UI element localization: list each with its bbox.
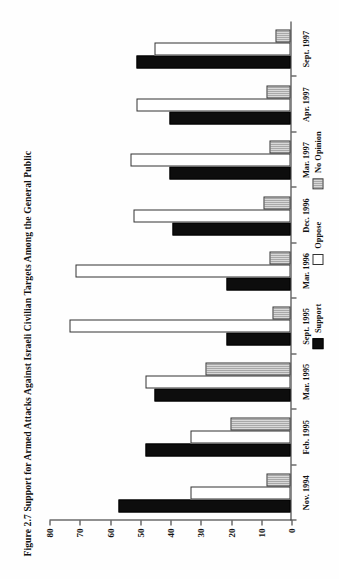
value-axis-label: 20 bbox=[226, 528, 236, 554]
bar-support bbox=[118, 499, 290, 512]
category-label: Sept. 1997 bbox=[302, 30, 311, 67]
bar-noop bbox=[269, 140, 290, 153]
bar-group: Sept. 1997 bbox=[49, 21, 291, 76]
bar-oppose bbox=[145, 375, 290, 388]
bar-noop bbox=[266, 85, 290, 98]
bar-noop bbox=[230, 417, 291, 430]
value-axis-tick bbox=[171, 520, 172, 525]
value-axis-label: 70 bbox=[75, 528, 85, 554]
bar-support bbox=[136, 55, 290, 68]
bar-noop bbox=[263, 196, 290, 209]
plot-area: SupportOpposeNo Opinion 0102030405060708… bbox=[50, 21, 292, 520]
bar-group: Nov. 1994 bbox=[49, 465, 291, 520]
value-axis-label: 30 bbox=[196, 528, 206, 554]
chart-legend: SupportOpposeNo Opinion bbox=[310, 21, 324, 520]
bar-noop bbox=[206, 362, 291, 375]
category-axis-tick bbox=[292, 75, 297, 76]
value-axis-tick bbox=[231, 520, 232, 525]
bar-oppose bbox=[133, 209, 290, 222]
category-label: Feb. 1995 bbox=[302, 420, 311, 454]
bar-group: Mar. 1995 bbox=[49, 354, 291, 409]
legend-label: No Opinion bbox=[314, 131, 323, 173]
bar-support bbox=[154, 388, 290, 401]
category-label: Dec. 1996 bbox=[302, 198, 311, 232]
category-axis-tick bbox=[292, 408, 297, 409]
bar-noop bbox=[269, 251, 290, 264]
bar-support bbox=[145, 443, 290, 456]
bar-support bbox=[227, 277, 291, 290]
bar-oppose bbox=[70, 319, 291, 332]
bar-oppose bbox=[154, 42, 290, 55]
bar-group: Feb. 1995 bbox=[49, 409, 291, 464]
category-label: Mar. 1996 bbox=[302, 253, 311, 289]
value-axis-label: 40 bbox=[166, 528, 176, 554]
legend-swatch-icon bbox=[313, 253, 324, 264]
bar-oppose bbox=[191, 486, 291, 499]
category-axis-tick bbox=[292, 186, 297, 187]
category-axis-tick bbox=[292, 519, 297, 520]
value-axis-tick bbox=[50, 520, 51, 525]
category-axis-tick bbox=[292, 131, 297, 132]
bar-chart: SupportOpposeNo Opinion 0102030405060708… bbox=[38, 17, 326, 562]
bar-oppose bbox=[191, 430, 291, 443]
legend-label: Support bbox=[314, 303, 323, 332]
value-axis-label: 60 bbox=[105, 528, 115, 554]
figure-title: Figure 2.7 Support for Armed Attacks Aga… bbox=[19, 0, 37, 561]
value-axis-tick bbox=[110, 520, 111, 525]
bar-oppose bbox=[76, 264, 291, 277]
bar-noop bbox=[272, 306, 290, 319]
value-axis-tick bbox=[201, 520, 202, 525]
legend-swatch-icon bbox=[313, 177, 324, 188]
category-label: Sept. 1995 bbox=[302, 308, 311, 345]
bar-noop bbox=[266, 473, 290, 486]
legend-swatch-icon bbox=[313, 338, 324, 349]
value-axis-label: 50 bbox=[135, 528, 145, 554]
bar-support bbox=[173, 222, 291, 235]
category-label: Nov. 1994 bbox=[302, 475, 311, 510]
category-axis-tick bbox=[292, 353, 297, 354]
value-axis-tick bbox=[140, 520, 141, 525]
value-axis-tick bbox=[292, 520, 293, 525]
category-axis-tick bbox=[292, 464, 297, 465]
value-axis-label: 80 bbox=[45, 528, 55, 554]
category-label: Mar. 1997 bbox=[302, 142, 311, 178]
bar-support bbox=[170, 166, 291, 179]
legend-item-no-opinion: No Opinion bbox=[313, 131, 324, 189]
category-axis-tick bbox=[292, 297, 297, 298]
legend-item-oppose: Oppose bbox=[313, 221, 324, 264]
bar-group: Mar. 1997 bbox=[49, 132, 291, 187]
bar-group: Apr. 1997 bbox=[49, 76, 291, 131]
bar-support bbox=[227, 332, 291, 345]
bar-support bbox=[170, 111, 291, 124]
bar-oppose bbox=[136, 98, 290, 111]
bar-noop bbox=[275, 29, 290, 42]
bar-group: Sept. 1995 bbox=[49, 298, 291, 353]
bar-oppose bbox=[130, 153, 290, 166]
bar-group: Mar. 1996 bbox=[49, 243, 291, 298]
value-axis-label: 10 bbox=[256, 528, 266, 554]
figure-page: Figure 2.7 Support for Armed Attacks Aga… bbox=[0, 0, 339, 579]
value-axis-tick bbox=[261, 520, 262, 525]
category-label: Apr. 1997 bbox=[302, 87, 311, 122]
category-label: Mar. 1995 bbox=[302, 363, 311, 399]
category-axis-line bbox=[291, 21, 292, 520]
bar-group: Dec. 1996 bbox=[49, 187, 291, 242]
legend-item-support: Support bbox=[313, 303, 324, 348]
category-axis-tick bbox=[292, 242, 297, 243]
legend-label: Oppose bbox=[314, 221, 323, 248]
value-axis-label: 0 bbox=[287, 528, 297, 554]
value-axis-tick bbox=[80, 520, 81, 525]
